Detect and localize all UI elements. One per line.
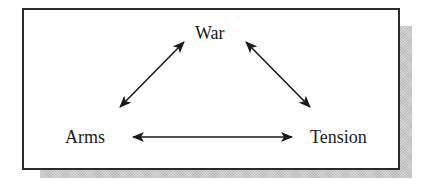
edge-arms-war bbox=[120, 42, 184, 107]
node-war-label: War bbox=[195, 24, 225, 42]
node-tension-label: Tension bbox=[310, 128, 367, 146]
node-arms-label: Arms bbox=[65, 128, 105, 146]
edge-war-tension bbox=[246, 42, 310, 107]
